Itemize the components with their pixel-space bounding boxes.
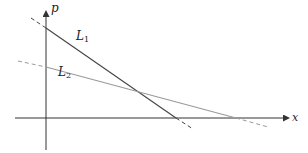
line-l2-label-subscript: 2 xyxy=(66,71,71,80)
diagram-canvas xyxy=(0,0,308,153)
p-axis-label: p xyxy=(51,2,59,14)
line-l1-label-main: L xyxy=(76,29,84,43)
line-l2-label: L2 xyxy=(58,66,71,80)
line-l2-extension-left xyxy=(18,61,46,67)
line-l1-extension-left xyxy=(31,18,46,28)
line-l1-label: L1 xyxy=(76,30,89,44)
line-l2-extension-right xyxy=(236,118,268,127)
diagram: p x L1 L2 xyxy=(0,0,308,153)
x-axis-label: x xyxy=(292,112,298,123)
line-l2 xyxy=(46,67,236,118)
line-l1-label-subscript: 1 xyxy=(84,35,89,44)
line-l2-label-main: L xyxy=(58,65,66,79)
line-l1-extension-right xyxy=(176,118,193,129)
